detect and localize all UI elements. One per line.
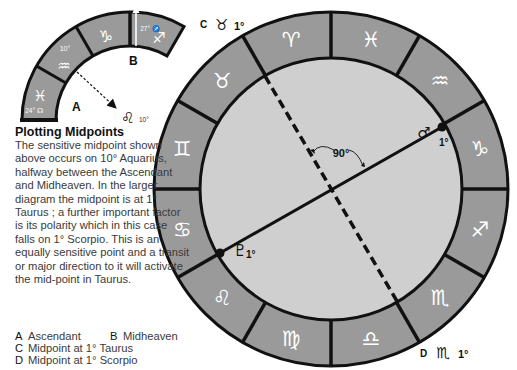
- legend-label: Ascendant: [28, 330, 110, 342]
- angle-label: 90°: [333, 147, 350, 159]
- aries-icon: ♈: [282, 28, 301, 52]
- legend-label: Midheaven: [123, 330, 178, 342]
- caption-body: The sensitive midpoint shown above occur…: [15, 139, 190, 286]
- mars-dot: [438, 123, 447, 132]
- midpoint-arrow: [77, 72, 115, 107]
- pluto-degree: 1°: [246, 249, 256, 260]
- aquarius-icon: ♒: [430, 69, 449, 93]
- capricorn-icon: ♑: [470, 137, 489, 161]
- scorpio-icon: ♏: [436, 344, 450, 362]
- capricorn-icon: ♑: [99, 27, 113, 46]
- caption-title: Plotting Midpoints: [15, 126, 190, 139]
- legend-key: C: [15, 342, 28, 354]
- aquarius-icon: ♒: [57, 57, 70, 75]
- label-d: D ♏ 1°: [420, 344, 469, 362]
- zodiac-wheel: ♐ ♏ ♎ ♍ ♌ ♋ ♊ ♉ ♈ ♓ ♒ ♑ ♂ 1° ♇ 1° 90°: [154, 12, 508, 366]
- label-c: C ♉ 1°: [200, 16, 245, 34]
- legend-row: D Midpoint at 1° Scorpio: [15, 354, 178, 366]
- caption: Plotting Midpoints The sensitive midpoin…: [15, 126, 190, 286]
- virgo-icon: ♍: [282, 327, 301, 351]
- legend-key: A: [15, 330, 28, 342]
- aquarius-degree: 10°: [60, 45, 71, 52]
- label-a: A: [72, 100, 81, 114]
- libra-icon: ♎: [361, 327, 380, 351]
- pisces-degree: 24° ☊: [25, 107, 43, 114]
- leo-degree: 10°: [139, 116, 149, 123]
- small-arc-diagram: ♓ 24° ☊ ♒ 10° ♑ ♐ 27° ♐ ♌ 10° A B: [20, 5, 184, 127]
- mars-icon: ♂: [417, 124, 430, 142]
- pisces-icon: ♓: [361, 28, 380, 52]
- legend-label: Midpoint at 1° Taurus: [28, 342, 133, 354]
- svg-text:1°: 1°: [234, 20, 245, 32]
- taurus-icon: ♉: [215, 16, 228, 34]
- pisces-icon: ♓: [33, 87, 46, 105]
- sagittarius-icon: ♐: [470, 218, 489, 242]
- legend-label: Midpoint at 1° Scorpio: [28, 354, 138, 366]
- legend: A Ascendant B Midheaven C Midpoint at 1°…: [15, 330, 178, 366]
- legend-key: B: [110, 330, 123, 342]
- scorpio-icon: ♏: [430, 286, 449, 310]
- taurus-icon: ♉: [213, 69, 232, 93]
- svg-text:D: D: [420, 348, 427, 359]
- label-b: B: [129, 54, 138, 68]
- svg-text:C: C: [200, 19, 207, 30]
- mars-degree: 1°: [439, 137, 449, 148]
- legend-row: A Ascendant B Midheaven: [15, 330, 178, 342]
- pluto-dot: [216, 249, 225, 258]
- midheaven-arrowhead-icon: [133, 5, 140, 13]
- svg-text:1°: 1°: [458, 348, 469, 360]
- sagittarius-degree: 27° ♐: [140, 25, 160, 33]
- leo-icon: ♌: [213, 286, 232, 310]
- legend-row: C Midpoint at 1° Taurus: [15, 342, 178, 354]
- legend-key: D: [15, 354, 28, 366]
